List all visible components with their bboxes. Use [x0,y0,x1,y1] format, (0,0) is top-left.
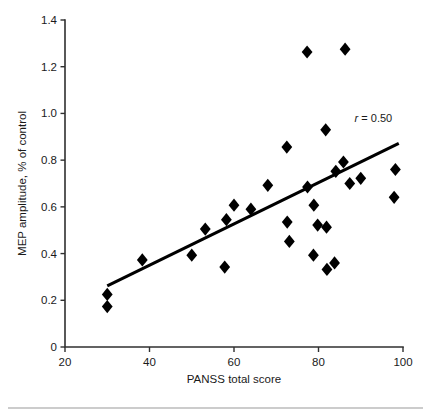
x-tick-label: 20 [59,356,72,368]
data-point-marker [344,177,355,190]
data-point-marker [281,140,292,153]
data-point-marker [282,215,293,228]
data-point-marker [284,235,295,248]
x-tick-label: 60 [228,356,241,368]
data-point-marker [262,179,273,192]
y-tick-label: 1.2 [41,61,57,73]
data-point-marker [137,253,148,266]
y-tick-label: 0.4 [41,248,58,260]
data-point-marker [355,172,366,185]
data-point-marker [321,221,332,234]
data-point-marker [308,249,319,262]
y-axis-title: MEP amplitude, % of control [16,111,28,256]
data-point-marker [102,288,113,301]
data-point-marker [102,300,113,313]
y-tick-label: 0.6 [41,201,57,213]
data-point-marker [338,155,349,168]
y-tick-label: 1.4 [41,14,58,26]
y-tick-label: 1.0 [41,107,57,119]
data-point-marker [302,180,313,193]
x-tick-label: 40 [143,356,156,368]
x-tick-label: 80 [312,356,325,368]
y-tick-label: 0.8 [41,154,57,166]
trend-line [107,143,399,285]
data-point-marker [229,199,240,212]
x-axis-ticks: 20406080100 [59,347,413,368]
y-tick-label: 0.2 [41,294,57,306]
x-axis-title: PANSS total score [187,373,281,385]
correlation-value: = 0.50 [358,112,392,124]
x-tick-label: 100 [393,356,412,368]
y-axis-ticks: 00.20.40.60.81.01.21.4 [41,14,65,353]
data-point-marker [390,163,401,176]
data-point-marker [340,43,351,56]
chart-canvas: 00.20.40.60.81.01.21.420406080100PANSS t… [0,0,431,417]
data-point-marker [308,199,319,212]
data-point-marker [320,123,331,136]
scatter-plot-figure: 00.20.40.60.81.01.21.420406080100PANSS t… [0,0,431,417]
data-point-marker [302,45,313,58]
y-tick-label: 0 [51,341,57,353]
data-point-marker [219,261,230,274]
correlation-annotation: r = 0.50 [355,112,393,124]
data-point-marker [389,191,400,204]
data-point-marker [186,249,197,262]
data-point-marker [200,222,211,235]
data-points-group [102,43,401,314]
data-point-marker [312,218,323,231]
